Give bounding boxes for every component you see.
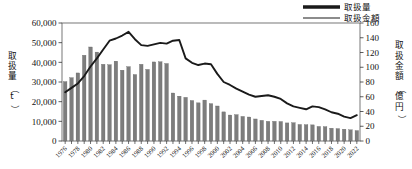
bar-2011 bbox=[285, 123, 289, 141]
bar-1989 bbox=[146, 69, 150, 141]
bar-1995 bbox=[184, 97, 188, 141]
bar-2019 bbox=[336, 129, 340, 141]
y-tick-label-right: 0 bbox=[366, 136, 371, 146]
y-axis-left-title-char: 量 bbox=[8, 71, 17, 81]
bar-1986 bbox=[127, 67, 131, 141]
bar-2002 bbox=[228, 115, 232, 141]
bar-2005 bbox=[247, 117, 251, 141]
bar-2012 bbox=[292, 123, 296, 141]
y-tick-label-right: 60 bbox=[366, 92, 376, 102]
y-tick-label-right: 80 bbox=[366, 77, 376, 87]
bar-2015 bbox=[311, 125, 315, 141]
bar-1998 bbox=[203, 100, 207, 141]
y-axis-right-title-char: 億 bbox=[395, 90, 404, 101]
bar-1994 bbox=[178, 96, 182, 141]
bar-1990 bbox=[152, 62, 156, 141]
y-tick-label-right: 140 bbox=[366, 33, 380, 43]
y-tick-label-left: 60,000 bbox=[32, 18, 57, 28]
y-tick-label-left: 0 bbox=[52, 136, 57, 146]
bar-2008 bbox=[266, 121, 270, 141]
bar-2014 bbox=[304, 125, 308, 141]
bar-1996 bbox=[190, 100, 194, 141]
y-axis-right-title-char: ） bbox=[397, 115, 407, 124]
y-tick-label-right: 120 bbox=[366, 48, 380, 58]
y-axis-left-title-char: 取 bbox=[8, 51, 17, 61]
bar-1981 bbox=[95, 52, 99, 141]
bar-1993 bbox=[171, 93, 175, 141]
y-tick-label-left: 40,000 bbox=[32, 58, 57, 68]
bar-2021 bbox=[349, 130, 353, 141]
y-tick-label-right: 20 bbox=[366, 121, 376, 131]
y-axis-right-title-char: 金 bbox=[395, 60, 404, 71]
y-axis-right-title-char: 額 bbox=[395, 70, 404, 81]
bar-2006 bbox=[254, 119, 258, 141]
bar-2009 bbox=[273, 121, 277, 141]
bar-2020 bbox=[342, 129, 346, 141]
y-axis-left-title-char: ） bbox=[10, 105, 20, 114]
y-tick-label-left: 30,000 bbox=[32, 77, 57, 87]
bar-1988 bbox=[139, 64, 143, 141]
chart-container: 取扱量取扱金額 010,00020,00030,00040,00050,0006… bbox=[0, 0, 412, 169]
y-tick-label-left: 10,000 bbox=[32, 117, 57, 127]
y-axis-left-title-char: 扱 bbox=[8, 60, 17, 71]
bar-2010 bbox=[279, 122, 283, 141]
bar-1983 bbox=[108, 65, 112, 141]
y-axis-right-title-char: 取 bbox=[395, 40, 404, 50]
bar-2016 bbox=[317, 126, 321, 141]
bar-1997 bbox=[197, 103, 201, 141]
bar-1992 bbox=[165, 64, 169, 141]
y-axis-right-title-char: 円 bbox=[395, 102, 404, 112]
bar-2000 bbox=[216, 106, 220, 141]
bar-1980 bbox=[89, 47, 93, 141]
bar-1999 bbox=[209, 104, 213, 141]
bar-2013 bbox=[298, 124, 302, 141]
y-tick-label-right: 100 bbox=[366, 62, 380, 72]
bar-2022 bbox=[355, 131, 359, 141]
bar-1982 bbox=[101, 64, 105, 141]
bar-1991 bbox=[159, 62, 163, 141]
y-tick-label-right: 160 bbox=[366, 18, 380, 28]
bar-2001 bbox=[222, 112, 226, 141]
bar-2003 bbox=[235, 115, 239, 141]
bar-1985 bbox=[120, 70, 124, 141]
y-axis-right-title-char: 扱 bbox=[395, 50, 404, 61]
bar-2018 bbox=[330, 128, 334, 141]
y-tick-label-left: 20,000 bbox=[32, 97, 57, 107]
bar-1987 bbox=[133, 75, 137, 141]
legend-label-取扱量: 取扱量 bbox=[344, 2, 371, 12]
bar-2007 bbox=[260, 120, 264, 141]
bar-2017 bbox=[323, 127, 327, 141]
chart-svg: 取扱量取扱金額 010,00020,00030,00040,00050,0006… bbox=[0, 0, 412, 169]
y-tick-label-right: 40 bbox=[366, 107, 376, 117]
bar-1979 bbox=[82, 55, 86, 141]
y-tick-label-left: 50,000 bbox=[32, 38, 57, 48]
bar-1984 bbox=[114, 61, 118, 141]
bar-2004 bbox=[241, 116, 245, 141]
